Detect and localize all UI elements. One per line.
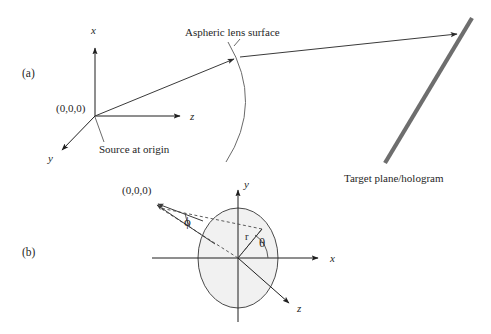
panel-b-axis-z-label: z — [296, 302, 302, 314]
panel-a-lens-annotation: Aspheric lens surface — [185, 26, 280, 38]
panel-b-axis-x-label: x — [329, 252, 335, 264]
panel-b-radius-label: r — [245, 231, 249, 242]
panel-a-axis-y-label: y — [47, 152, 53, 164]
panel-b-phi-label: ϕ — [184, 214, 191, 229]
panel-b-label: (b) — [22, 246, 36, 259]
panel-a-axis-z-label: z — [189, 110, 195, 122]
panel-b-origin-label: (0,0,0) — [122, 184, 152, 197]
figure-canvas: (a) x z y (0,0,0) Source at origin Asphe… — [0, 0, 491, 334]
panel-b-axis-y-label: y — [243, 178, 249, 190]
panel-a-axis-x-label: x — [90, 24, 96, 36]
panel-a-label: (a) — [22, 67, 35, 80]
panel-b-theta-label: θ — [259, 235, 265, 250]
panel-a-target-annotation: Target plane/hologram — [344, 172, 444, 184]
panel-a-origin-label: (0,0,0) — [56, 102, 86, 115]
panel-a-source-annotation: Source at origin — [99, 143, 170, 155]
